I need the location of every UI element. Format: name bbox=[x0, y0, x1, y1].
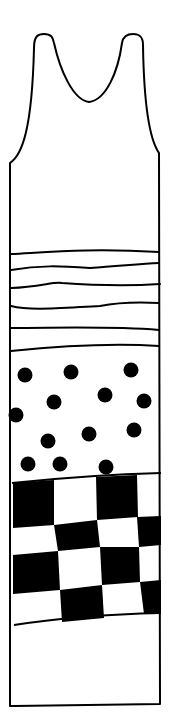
checker-top-edge bbox=[12, 473, 161, 483]
stripes bbox=[11, 250, 160, 351]
tank-dress-drawing bbox=[0, 0, 172, 727]
checkerboard bbox=[13, 475, 161, 622]
polka-dots bbox=[9, 363, 152, 475]
